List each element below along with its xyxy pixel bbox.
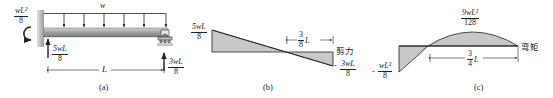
moment-diagram — [399, 32, 518, 72]
left-reaction-label: 5wL 8 — [52, 45, 68, 63]
panel-a-beam — [24, 10, 173, 73]
shear-zero-dimension-label: 3 8 L — [298, 31, 309, 49]
shear-diagram — [212, 30, 333, 66]
moment-arrow-icon — [24, 27, 31, 40]
distributed-load-arrows — [64, 14, 166, 28]
moment-title: 弯矩 — [521, 40, 539, 52]
span-length-label: L — [102, 64, 107, 74]
moment-max-label: 9wL² 128 — [461, 9, 479, 27]
right-reaction-label: 3wL 8 — [168, 58, 184, 76]
shear-min-label: 3wL 8 — [340, 60, 356, 78]
moment-zero-dimension-label: 3 4 L — [467, 50, 478, 68]
moment-min-label: wL² 8 — [378, 62, 392, 80]
caption-a: (a) — [99, 82, 108, 92]
beam — [44, 28, 168, 37]
shear-title: 剪力 — [336, 44, 354, 56]
moment-min-sign: - — [372, 67, 375, 76]
shear-max-label: 5wL 8 — [191, 23, 207, 41]
fixed-wall — [37, 10, 44, 47]
caption-c: (c) — [474, 82, 483, 92]
load-intensity-label: w — [100, 1, 105, 10]
caption-b: (b) — [263, 82, 273, 92]
fixed-end-moment-label: wL² 8 — [14, 7, 28, 25]
shear-min-sign: - — [334, 61, 337, 70]
